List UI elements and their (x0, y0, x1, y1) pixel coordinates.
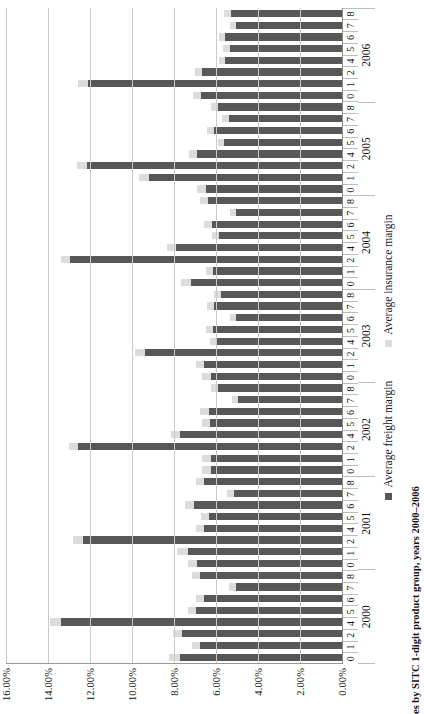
bar-segment-insurance[interactable] (135, 349, 144, 356)
bar-segment-insurance[interactable] (200, 197, 207, 204)
bar-segment-insurance[interactable] (181, 279, 190, 286)
bar-segment-insurance[interactable] (78, 80, 87, 87)
bar-segment-freight[interactable] (218, 103, 342, 110)
bar-segment-insurance[interactable] (171, 431, 180, 438)
bar-segment-freight[interactable] (236, 209, 342, 216)
bar-segment-freight[interactable] (230, 45, 342, 52)
bar-segment-freight[interactable] (70, 256, 342, 263)
bar-segment-insurance[interactable] (206, 267, 213, 274)
bar-segment-freight[interactable] (204, 595, 342, 602)
bar-segment-freight[interactable] (204, 361, 342, 368)
bar-segment-insurance[interactable] (77, 162, 86, 169)
bar-segment-insurance[interactable] (139, 174, 148, 181)
bar-segment-freight[interactable] (225, 57, 342, 64)
bar-segment-insurance[interactable] (73, 537, 82, 544)
bar-segment-freight[interactable] (182, 630, 342, 637)
bar-segment-freight[interactable] (225, 33, 342, 40)
bar-segment-freight[interactable] (221, 291, 342, 298)
bar-segment-insurance[interactable] (202, 373, 210, 380)
bar-segment-freight[interactable] (197, 560, 342, 567)
bar-segment-freight[interactable] (211, 373, 342, 380)
bar-segment-insurance[interactable] (196, 361, 204, 368)
bar-segment-freight[interactable] (236, 583, 342, 590)
bar-segment-freight[interactable] (204, 478, 342, 485)
value-axis: 0.00%2.00%4.00%6.00%8.00%10.00%12.00%14.… (6, 664, 342, 710)
bar-segment-insurance[interactable] (207, 127, 214, 134)
bar-segment-insurance[interactable] (188, 560, 197, 567)
bar-segment-freight[interactable] (211, 455, 342, 462)
bar-segment-insurance[interactable] (207, 302, 214, 309)
bar-segment-insurance[interactable] (69, 443, 78, 450)
bar-segment-freight[interactable] (212, 221, 342, 228)
bar-segment-insurance[interactable] (197, 185, 205, 192)
bar-segment-freight[interactable] (210, 419, 342, 426)
bar-segment-freight[interactable] (87, 162, 342, 169)
bar-segment-freight[interactable] (234, 490, 342, 497)
bar-segment-freight[interactable] (238, 396, 342, 403)
bar-segment-freight[interactable] (229, 115, 342, 122)
bar-segment-freight[interactable] (202, 68, 342, 75)
bar-segment-freight[interactable] (180, 654, 342, 661)
bar-segment-insurance[interactable] (61, 256, 70, 263)
bar-segment-freight[interactable] (180, 431, 342, 438)
bar-segment-insurance[interactable] (214, 291, 221, 298)
bar-segment-insurance[interactable] (229, 583, 236, 590)
bar-segment-freight[interactable] (206, 185, 343, 192)
bar-segment-freight[interactable] (200, 642, 342, 649)
bar-segment-freight[interactable] (236, 314, 342, 321)
bar-segment-insurance[interactable] (201, 513, 208, 520)
bar-segment-insurance[interactable] (196, 595, 204, 602)
bar-segment-freight[interactable] (78, 443, 342, 450)
bar-segment-insurance[interactable] (177, 548, 188, 555)
bar-segment-freight[interactable] (83, 537, 342, 544)
bar-segment-insurance[interactable] (200, 408, 208, 415)
bar-segment-freight[interactable] (176, 244, 342, 251)
bar-segment-insurance[interactable] (185, 501, 194, 508)
bar-segment-insurance[interactable] (202, 419, 209, 426)
bar-segment-insurance[interactable] (189, 150, 197, 157)
bar-segment-insurance[interactable] (192, 572, 200, 579)
category-tick-label: 7 (343, 488, 358, 500)
bar-segment-freight[interactable] (213, 267, 342, 274)
bar-segment-insurance[interactable] (206, 326, 213, 333)
bar-segment-freight[interactable] (209, 513, 342, 520)
bar-segment-freight[interactable] (211, 466, 342, 473)
bar-segment-freight[interactable] (219, 232, 342, 239)
bar-segment-freight[interactable] (197, 150, 342, 157)
bar-segment-freight[interactable] (200, 572, 342, 579)
bar-segment-insurance[interactable] (211, 384, 218, 391)
bar-segment-freight[interactable] (231, 10, 342, 17)
bar-segment-insurance[interactable] (192, 642, 200, 649)
bar-segment-insurance[interactable] (196, 525, 204, 532)
bar-segment-freight[interactable] (213, 326, 342, 333)
bar-segment-freight[interactable] (224, 139, 342, 146)
bar-segment-insurance[interactable] (202, 466, 210, 473)
bar-segment-insurance[interactable] (195, 68, 202, 75)
bar-segment-freight[interactable] (88, 80, 342, 87)
bar-segment-freight[interactable] (208, 197, 342, 204)
bar-segment-freight[interactable] (149, 174, 342, 181)
bar-segment-freight[interactable] (209, 408, 342, 415)
bar-segment-freight[interactable] (218, 384, 342, 391)
bar-segment-insurance[interactable] (202, 455, 210, 462)
bar-segment-insurance[interactable] (50, 618, 61, 625)
bar-segment-freight[interactable] (201, 92, 342, 99)
bar-segment-freight[interactable] (191, 279, 342, 286)
bar-segment-freight[interactable] (204, 525, 342, 532)
bar-segment-freight[interactable] (217, 338, 342, 345)
bar-segment-insurance[interactable] (211, 103, 218, 110)
bar-segment-freight[interactable] (196, 607, 342, 614)
bar-segment-insurance[interactable] (188, 607, 196, 614)
figure-caption-text: Average freight and insurance margins in… (410, 486, 421, 714)
bar-segment-freight[interactable] (188, 548, 342, 555)
bar-segment-insurance[interactable] (204, 221, 211, 228)
legend-item[interactable]: Average freight margin (382, 381, 394, 500)
bar-segment-insurance[interactable] (196, 478, 204, 485)
bar-segment-freight[interactable] (214, 127, 342, 134)
bar-segment-insurance[interactable] (227, 490, 234, 497)
bar-segment-freight[interactable] (214, 302, 342, 309)
bar-segment-insurance[interactable] (193, 92, 201, 99)
figure-stage: 0.00%2.00%4.00%6.00%8.00%10.00%12.00%14.… (0, 0, 424, 714)
bar-segment-freight[interactable] (236, 22, 342, 29)
legend-item[interactable]: Average insurance margin (382, 214, 394, 346)
